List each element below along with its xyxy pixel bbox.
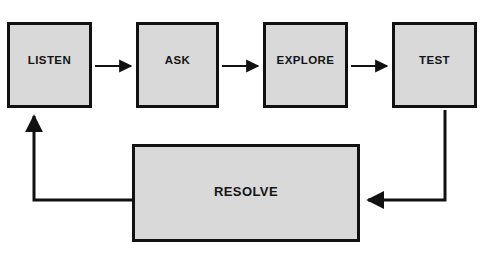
node-resolve[interactable]: RESOLVE [132,144,360,242]
node-explore[interactable]: EXPLORE [263,22,348,108]
process-flow-diagram: LISTEN ASK EXPLORE TEST RESOLVE [0,0,499,259]
node-test[interactable]: TEST [392,22,477,108]
node-listen[interactable]: LISTEN [7,22,92,108]
node-test-label: TEST [419,55,450,67]
node-ask-label: ASK [165,55,190,67]
node-resolve-label: RESOLVE [214,185,278,198]
connector-resolve-to-listen [34,116,132,200]
connector-test-to-resolve [368,110,445,200]
node-ask[interactable]: ASK [136,22,219,108]
node-listen-label: LISTEN [28,55,71,67]
node-explore-label: EXPLORE [277,55,335,67]
